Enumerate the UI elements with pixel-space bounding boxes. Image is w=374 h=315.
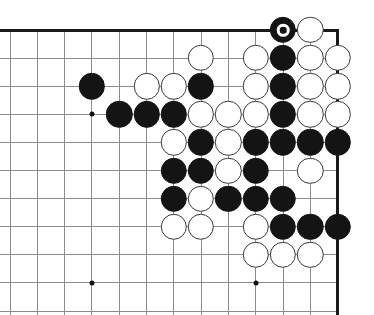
stone-white[interactable] xyxy=(270,242,296,268)
stone-white[interactable] xyxy=(297,45,323,71)
stone-black[interactable] xyxy=(133,101,159,127)
board-edge-right xyxy=(336,29,339,315)
hoshi-point xyxy=(89,280,94,285)
stone-white[interactable] xyxy=(215,157,241,183)
stone-white[interactable] xyxy=(297,17,323,43)
stone-black[interactable] xyxy=(270,45,296,71)
stone-black[interactable] xyxy=(106,101,132,127)
stone-white[interactable] xyxy=(161,213,187,239)
grid-line-horizontal xyxy=(0,311,338,312)
stone-white[interactable] xyxy=(188,45,214,71)
stone-black[interactable] xyxy=(188,129,214,155)
stone-black[interactable] xyxy=(324,129,350,155)
stone-white[interactable] xyxy=(297,157,323,183)
stone-white[interactable] xyxy=(133,73,159,99)
stone-black[interactable] xyxy=(270,73,296,99)
go-board[interactable] xyxy=(0,0,374,315)
stone-black[interactable] xyxy=(188,73,214,99)
stone-white[interactable] xyxy=(324,73,350,99)
stone-white[interactable] xyxy=(242,101,268,127)
grid-line-horizontal xyxy=(0,282,338,283)
stone-black[interactable] xyxy=(161,185,187,211)
stone-black[interactable] xyxy=(270,101,296,127)
stone-white[interactable] xyxy=(215,101,241,127)
stone-black[interactable] xyxy=(161,101,187,127)
stone-black[interactable] xyxy=(242,157,268,183)
stone-white[interactable] xyxy=(215,129,241,155)
stone-black[interactable] xyxy=(270,185,296,211)
stone-black[interactable] xyxy=(161,157,187,183)
stone-black[interactable] xyxy=(215,185,241,211)
stone-white[interactable] xyxy=(161,129,187,155)
hoshi-point xyxy=(89,112,94,117)
stone-white[interactable] xyxy=(242,45,268,71)
stone-white[interactable] xyxy=(324,101,350,127)
grid-line-vertical xyxy=(119,30,120,315)
stone-black[interactable] xyxy=(270,213,296,239)
grid-line-vertical xyxy=(10,30,11,315)
stone-black[interactable] xyxy=(324,213,350,239)
stone-white[interactable] xyxy=(242,242,268,268)
stone-white[interactable] xyxy=(297,242,323,268)
stone-black[interactable] xyxy=(242,129,268,155)
stone-white[interactable] xyxy=(242,73,268,99)
grid-line-vertical xyxy=(64,30,65,315)
stone-black[interactable] xyxy=(188,157,214,183)
stone-black[interactable] xyxy=(297,129,323,155)
stone-black[interactable] xyxy=(242,185,268,211)
stone-white[interactable] xyxy=(242,213,268,239)
hoshi-point xyxy=(253,280,258,285)
stone-black[interactable] xyxy=(297,213,323,239)
stone-black[interactable] xyxy=(270,129,296,155)
stone-white[interactable] xyxy=(188,213,214,239)
stone-white[interactable] xyxy=(161,73,187,99)
stone-white[interactable] xyxy=(297,101,323,127)
stone-white[interactable] xyxy=(188,185,214,211)
last-move-circle-icon xyxy=(277,24,290,37)
stone-white[interactable] xyxy=(297,73,323,99)
grid-line-vertical xyxy=(37,30,38,315)
stone-white[interactable] xyxy=(188,101,214,127)
stone-white[interactable] xyxy=(324,45,350,71)
stone-black[interactable] xyxy=(79,73,105,99)
